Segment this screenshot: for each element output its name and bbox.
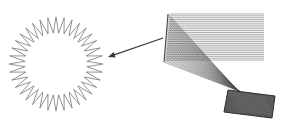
- optical-ray-diagram: [0, 0, 281, 125]
